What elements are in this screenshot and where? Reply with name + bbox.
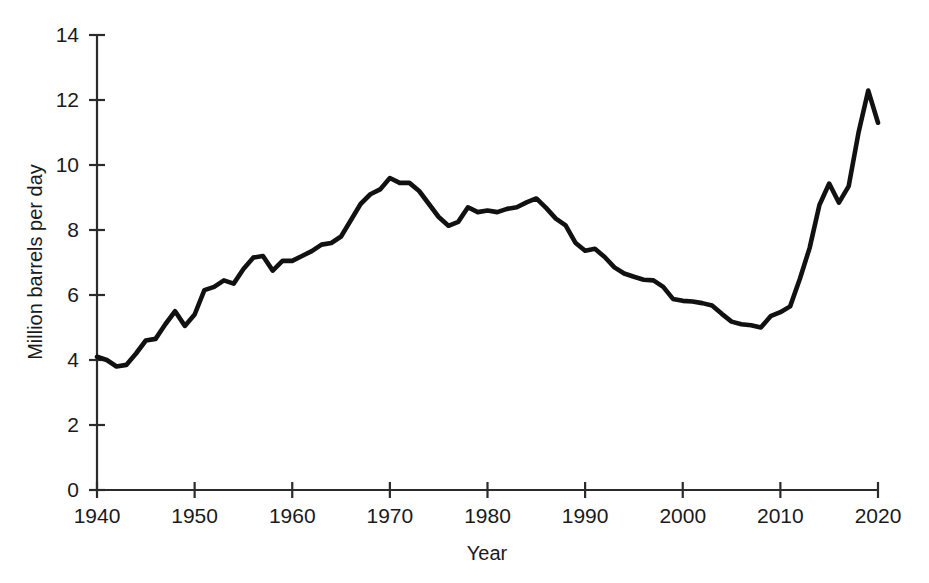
x-tick-label: 2020 (855, 504, 902, 527)
y-tick-label: 2 (67, 413, 79, 436)
y-axis-title: Million barrels per day (24, 164, 46, 360)
x-tick-label: 2010 (757, 504, 804, 527)
x-tick-label: 1950 (171, 504, 218, 527)
y-tick-label: 8 (67, 218, 79, 241)
line-chart: 02468101214 1940195019601970198019902000… (0, 0, 929, 583)
y-tick-label: 10 (56, 153, 79, 176)
y-tick-label: 4 (67, 348, 79, 371)
x-tick-label: 1980 (464, 504, 511, 527)
y-tick-label: 12 (56, 88, 79, 111)
x-tick-label: 1990 (562, 504, 609, 527)
chart-background (0, 0, 929, 583)
x-tick-label: 2000 (659, 504, 706, 527)
y-tick-label: 6 (67, 283, 79, 306)
y-tick-label: 14 (56, 23, 80, 46)
x-tick-label: 1940 (74, 504, 121, 527)
x-tick-label: 1960 (269, 504, 316, 527)
x-axis-title: Year (467, 542, 508, 564)
x-tick-label: 1970 (367, 504, 414, 527)
y-tick-label: 0 (67, 478, 79, 501)
chart-canvas: 02468101214 1940195019601970198019902000… (0, 0, 929, 583)
